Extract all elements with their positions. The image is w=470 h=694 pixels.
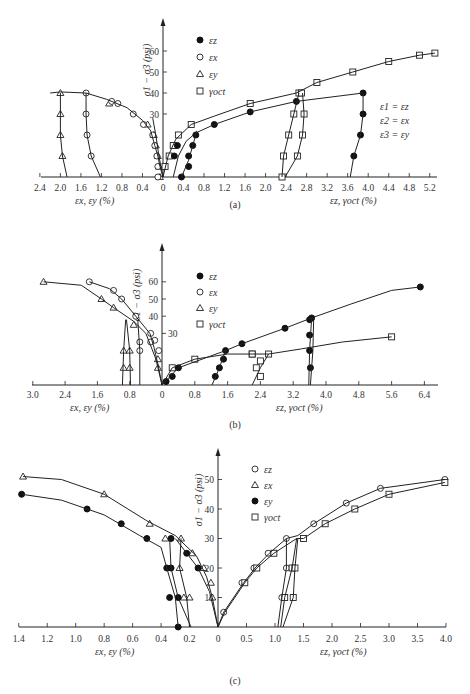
filled-circle-marker: [197, 273, 203, 279]
x-axis-label-left: εx, εy (%): [70, 402, 110, 414]
x-axis-label-left: εx, εy (%): [75, 195, 115, 207]
y-axis-label: σ1 − σ3 (psi): [141, 43, 153, 96]
y-tick-label: 40: [149, 312, 159, 322]
x-axis-label-right: εz, γoct (%): [276, 402, 323, 414]
data-curve: [173, 93, 363, 177]
data-curve: [22, 494, 179, 627]
filled-circle-marker: [167, 595, 173, 601]
x-tick-label: 0.2: [184, 634, 196, 644]
x-tick-label: 0: [216, 634, 221, 644]
x-tick-label: 0: [161, 183, 166, 193]
x-tick-label: 0.6: [127, 634, 139, 644]
filled-circle-marker: [307, 365, 313, 371]
square-marker: [197, 88, 203, 94]
filled-circle-marker: [171, 153, 177, 159]
x-tick-label: 1.0: [70, 634, 82, 644]
legend-label: γoct: [209, 319, 225, 330]
open-circle-marker: [156, 348, 162, 354]
legend-label: γoct: [209, 86, 225, 97]
filled-circle-marker: [252, 498, 258, 504]
panel-caption: (a): [229, 199, 240, 211]
square-marker: [257, 358, 263, 364]
legend-label: εy: [264, 496, 273, 507]
y-tick-label: 50: [205, 475, 215, 485]
y-axis-arrow-icon: [216, 448, 221, 456]
x-tick-label: 4.4: [383, 183, 395, 193]
filled-circle-marker: [197, 37, 203, 43]
square-marker: [257, 373, 263, 379]
panel-caption: (b): [229, 419, 241, 431]
figure: 304050602.42.01.61.20.80.400.40.81.21.62…: [0, 0, 470, 694]
triangle-marker: [20, 473, 27, 479]
x-tick-label: 0.4: [155, 634, 167, 644]
x-tick-label: 4.0: [320, 390, 332, 400]
x-tick-label: 1.6: [91, 390, 103, 400]
x-tick-label: 1.2: [96, 183, 108, 193]
x-tick-label: 1.2: [219, 183, 231, 193]
panel-caption: (c): [229, 675, 240, 687]
x-tick-label: 3.6: [342, 183, 354, 193]
x-tick-label: 2.5: [355, 634, 367, 644]
x-tick-label: 3.0: [27, 390, 39, 400]
x-tick-label: 2.0: [260, 183, 272, 193]
x-tick-label: 1.6: [75, 183, 87, 193]
x-tick-label: 5.2: [424, 183, 436, 193]
y-axis-arrow-icon: [161, 18, 166, 26]
x-tick-label: 0.8: [198, 183, 210, 193]
open-circle-marker: [197, 54, 203, 60]
x-tick-label: 2.4: [280, 183, 292, 193]
open-circle-marker: [252, 466, 258, 472]
x-tick-label: 3.5: [412, 634, 424, 644]
x-axis-label-right: εz, γoct (%): [320, 646, 367, 658]
legend-label: εx: [264, 480, 273, 491]
square-marker: [252, 514, 258, 520]
x-tick-label: 0.8: [98, 634, 110, 644]
x-tick-label: 1.6: [239, 183, 251, 193]
x-tick-label: 2.0: [54, 183, 66, 193]
filled-circle-marker: [307, 332, 313, 338]
y-tick-label: 30: [150, 110, 160, 120]
x-tick-label: 1.6: [222, 390, 234, 400]
x-axis-label-right: εz, γoct (%): [330, 195, 377, 207]
open-circle-marker: [155, 174, 161, 180]
legend-label: γoct: [264, 512, 280, 523]
chart-panel-a: 304050602.42.01.61.20.80.400.40.81.21.62…: [34, 18, 438, 211]
legend-label: εz: [264, 464, 272, 475]
annotation-text: ε3 = εy: [380, 129, 410, 140]
legend-label: εy: [209, 303, 218, 314]
annotation-text: ε1 = εz: [380, 101, 409, 112]
legend-label: εz: [209, 35, 217, 46]
x-tick-label: 2.0: [326, 634, 338, 644]
y-tick-label: 60: [149, 277, 159, 287]
legend-label: εz: [209, 271, 217, 282]
legend-label: εy: [209, 69, 218, 80]
data-curve: [283, 539, 298, 628]
x-tick-label: 2.4: [59, 390, 71, 400]
chart-panel-b: 304050603.02.41.60.800.81.62.43.24.04.85…: [27, 243, 438, 431]
legend-label: εx: [209, 52, 218, 63]
x-tick-label: 1.0: [269, 634, 281, 644]
y-tick-label: 40: [205, 505, 215, 515]
x-tick-label: 0.4: [178, 183, 190, 193]
triangle-marker: [40, 278, 47, 284]
x-tick-label: 3.2: [321, 183, 333, 193]
triangle-marker: [197, 305, 204, 311]
triangle-marker: [120, 364, 127, 370]
y-tick-label: 30: [168, 329, 178, 339]
x-tick-label: 2.4: [254, 390, 266, 400]
x-tick-label: 0.5: [241, 634, 253, 644]
legend-label: εx: [209, 287, 218, 298]
y-axis-label: σ1 − σ3 (psi): [193, 473, 205, 526]
x-tick-label: 3.2: [287, 390, 299, 400]
open-circle-marker: [265, 550, 271, 556]
x-tick-label: 6.4: [418, 390, 430, 400]
x-tick-label: 0: [160, 390, 165, 400]
x-tick-label: 1.5: [298, 634, 310, 644]
y-tick-label: 30: [205, 534, 215, 544]
x-tick-label: 1.2: [41, 634, 53, 644]
y-axis-arrow-icon: [160, 243, 165, 251]
square-marker: [253, 365, 259, 371]
square-marker: [197, 321, 203, 327]
x-tick-label: 0.8: [116, 183, 128, 193]
chart-panel-c: 10203040501.41.21.00.80.60.40.200.51.01.…: [13, 448, 452, 687]
